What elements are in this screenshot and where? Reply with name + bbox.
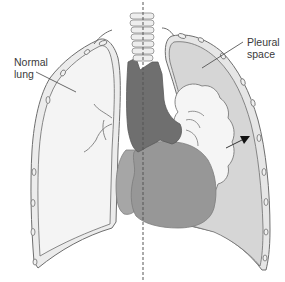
normal-lung-label-line1: Normal	[14, 56, 48, 68]
trachea-group	[130, 13, 154, 61]
pleural-space-label-line1: Pleural	[247, 36, 280, 48]
right-clavicle	[162, 28, 174, 36]
heart-group	[116, 141, 216, 228]
pneumothorax-diagram	[0, 0, 285, 282]
trachea-ring	[130, 20, 154, 26]
heart	[131, 141, 216, 228]
trachea-ring	[130, 13, 154, 19]
pleural-space-label: Pleural space	[247, 36, 280, 60]
normal-lung-label: Normal lung	[14, 56, 48, 80]
pleural-space-label-line2: space	[247, 48, 280, 60]
normal-lung-label-line2: lung	[14, 68, 48, 80]
normal-lung	[38, 46, 114, 256]
